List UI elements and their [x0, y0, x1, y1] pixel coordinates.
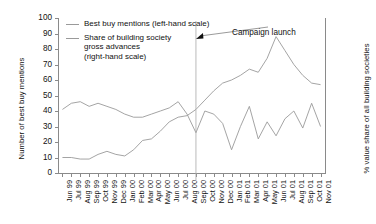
legend-item-best-buy-mentions: Best buy mentions (left-hand scale) [66, 19, 209, 29]
legend-label: Share of building society gross advances… [84, 33, 171, 62]
y-axis-tick-mark [55, 158, 58, 159]
y-axis-tick-mark [55, 173, 58, 174]
annotation-campaign-launch: Campaign launch [232, 28, 296, 37]
y-axis-tick-mark [55, 34, 58, 35]
legend-swatch-icon [66, 24, 79, 25]
chart-legend: Best buy mentions (left-hand scale) Shar… [66, 19, 209, 65]
chart-container: Number of best buy mentions % value shar… [0, 0, 376, 224]
legend-label: Best buy mentions (left-hand scale) [84, 19, 209, 29]
y-axis-tick-mark [55, 18, 58, 19]
y-axis-tick-mark [55, 65, 58, 66]
series-line-gross-advances [62, 102, 320, 150]
y-axis-tick-mark [55, 111, 58, 112]
y-axis-tick-mark [55, 127, 58, 128]
legend-swatch-icon [66, 38, 79, 39]
y-axis-tick-mark [55, 96, 58, 97]
legend-item-gross-advances: Share of building society gross advances… [66, 33, 209, 62]
y-axis-tick-mark [55, 49, 58, 50]
y-axis-tick-mark [55, 142, 58, 143]
y-axis-tick-mark [55, 80, 58, 81]
